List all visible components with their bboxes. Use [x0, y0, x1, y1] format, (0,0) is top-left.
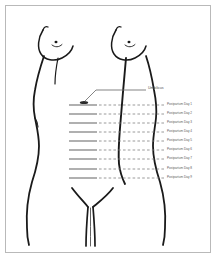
areola-curves — [52, 45, 135, 47]
postpartum-day-label: Postpartum Day 4 — [167, 130, 192, 133]
umbilicus-label: Umbilicus — [148, 86, 164, 90]
postpartum-day-label: Postpartum Day 8 — [167, 167, 192, 170]
postpartum-day-label: Postpartum Day 9 — [167, 176, 192, 179]
postpartum-day-label: Postpartum Day 1 — [167, 103, 192, 106]
body-outline — [27, 27, 166, 246]
postpartum-day-label: Postpartum Day 5 — [167, 139, 192, 142]
umbilicus-marker — [80, 101, 88, 104]
postpartum-day-label: Postpartum Day 3 — [167, 121, 192, 124]
postpartum-day-label: Postpartum Day 7 — [167, 157, 192, 160]
figure-container: Umbilicus Postpartum Day 1Postpartum Day… — [0, 0, 218, 260]
fundal-height-lines — [69, 105, 164, 178]
postpartum-day-label: Postpartum Day 6 — [167, 148, 192, 151]
postpartum-day-label: Postpartum Day 2 — [167, 112, 192, 115]
umbilicus-leader-line — [85, 90, 146, 101]
nipple-marks — [55, 41, 131, 43]
